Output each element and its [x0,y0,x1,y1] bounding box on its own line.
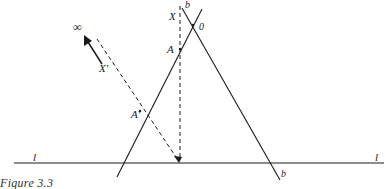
projective-diagram: ∞ X' X b 0 A A' l l b [0,0,385,189]
infinity-arrowhead [84,35,92,46]
label-l-left: l [33,151,36,163]
point-a [179,48,181,50]
label-b-bottom: b [281,168,286,179]
point-o [192,24,194,26]
label-l-right: l [375,151,378,163]
label-x: X [168,10,177,22]
label-x-prime: X' [98,62,109,74]
label-o: 0 [199,21,204,32]
figure-caption: Figure 3.3 [0,176,53,189]
line-left-leg [117,9,202,177]
label-b-top: b [185,0,190,10]
dashed-oblique [97,39,178,160]
infinity-arrow-shaft [88,42,102,64]
label-infinity: ∞ [73,20,82,34]
label-a-prime: A' [130,108,141,120]
foot-arrowhead [174,156,182,163]
label-a: A [166,43,174,55]
line-b [182,8,280,180]
